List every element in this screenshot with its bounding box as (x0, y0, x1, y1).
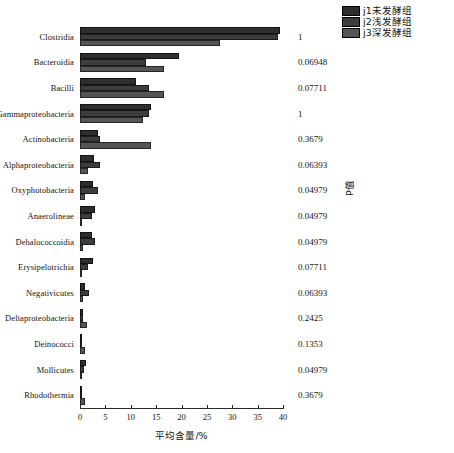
bar-group (80, 75, 283, 101)
bar (80, 219, 82, 225)
legend-item-label: j2浅发酵组 (363, 17, 412, 27)
bar (80, 91, 164, 97)
x-axis-tick-label: 35 (253, 412, 262, 422)
x-axis-tick (105, 405, 106, 409)
p-value-label: 0.06393 (298, 288, 327, 298)
bar-group (80, 254, 283, 280)
p-value-row: 0.1353 (290, 331, 352, 357)
p-value-row: 0.04979 (290, 357, 352, 383)
category-row: Alphaproteobacteria (0, 152, 78, 178)
category-row: Oxyphotobacteria (0, 178, 78, 204)
bar (80, 194, 85, 200)
x-axis-tick-label: 40 (279, 412, 288, 422)
category-label: Actinobacteria (23, 134, 74, 144)
x-axis-title: 平均含量/% (80, 428, 283, 442)
legend-item[interactable]: j2浅发酵组 (342, 17, 412, 27)
category-label: Clostridia (39, 32, 74, 42)
bar-group (80, 331, 283, 357)
p-value-axis-title: P值 (342, 180, 356, 196)
bar-row (80, 24, 283, 50)
bar (80, 322, 87, 328)
x-axis-tick (131, 405, 132, 409)
category-row: Deinococci (0, 331, 78, 357)
p-value-label: 0.3679 (298, 134, 323, 144)
bar-row (80, 75, 283, 101)
category-row: Anaerolineae (0, 203, 78, 229)
p-value-label: 0.1353 (298, 339, 323, 349)
legend-item-label: j1未发酵组 (363, 6, 412, 16)
category-row: Actinobacteria (0, 126, 78, 152)
bar-row (80, 229, 283, 255)
x-axis-tick (182, 405, 183, 409)
p-value-label: 0.04979 (298, 185, 327, 195)
category-label: Alphaproteobacteria (3, 160, 74, 170)
category-label: Anaerolineae (27, 211, 74, 221)
p-value-row: 0.04979 (290, 229, 352, 255)
bar-group (80, 280, 283, 306)
bar-group (80, 152, 283, 178)
bar (80, 245, 83, 251)
bar-row (80, 306, 283, 332)
bar-group (80, 24, 283, 50)
bar (80, 117, 143, 123)
p-value-row: 0.3679 (290, 382, 352, 408)
p-value-label: 0.04979 (298, 211, 327, 221)
p-value-label: 0.07711 (298, 262, 327, 272)
bar-row (80, 126, 283, 152)
p-value-row: 1 (290, 24, 352, 50)
p-value-label: 1 (298, 32, 303, 42)
category-label: Rhodothermia (24, 390, 74, 400)
x-axis-tick-label: 5 (103, 412, 107, 422)
bar-group (80, 357, 283, 383)
x-axis-tick (156, 405, 157, 409)
x-axis-tick (80, 405, 81, 409)
category-row: Negativicutes (0, 280, 78, 306)
category-axis-labels: ClostridiaBacteroidiaBacilliGammaproteob… (0, 24, 78, 408)
bar (80, 373, 82, 379)
bar-row (80, 152, 283, 178)
category-row: Mollicutes (0, 357, 78, 383)
category-label: Bacilli (51, 83, 74, 93)
bar (80, 270, 82, 276)
category-label: Mollicutes (37, 365, 74, 375)
chart-plot-area: j1未发酵组j2浅发酵组j3深发酵组 ClostridiaBacteroidia… (0, 0, 454, 453)
x-axis-tick (232, 405, 233, 409)
category-row: Dehalococcoidia (0, 229, 78, 255)
category-label: Deinococci (34, 339, 74, 349)
p-value-label: 1 (298, 109, 303, 119)
p-value-row: 0.06393 (290, 280, 352, 306)
category-label: Negativicutes (26, 288, 74, 298)
x-axis-tick (258, 405, 259, 409)
bar-row (80, 280, 283, 306)
bar-row (80, 357, 283, 383)
bar-group (80, 306, 283, 332)
p-value-label: 0.06393 (298, 160, 327, 170)
category-label: Gammaproteobacteria (0, 109, 74, 119)
p-value-row: 0.06393 (290, 152, 352, 178)
bar-row (80, 178, 283, 204)
legend-swatch-icon (342, 6, 360, 16)
x-axis-tick-label: 15 (152, 412, 161, 422)
x-axis-tick-label: 30 (228, 412, 237, 422)
legend-item[interactable]: j3深发酵组 (342, 28, 412, 38)
bar-group (80, 50, 283, 76)
p-value-label: 0.07711 (298, 83, 327, 93)
p-value-row: 0.04979 (290, 203, 352, 229)
bar (80, 296, 83, 302)
bar-row (80, 203, 283, 229)
bar-group (80, 101, 283, 127)
category-row: Bacilli (0, 75, 78, 101)
bar (80, 66, 164, 72)
bar-row (80, 331, 283, 357)
x-axis-tick-label: 0 (78, 412, 82, 422)
category-label: Deltaproteobacteria (5, 313, 74, 323)
p-value-label: 0.04979 (298, 237, 327, 247)
bar (80, 142, 151, 148)
bar (80, 168, 88, 174)
p-value-column: 10.069480.0771110.36790.063930.049790.04… (290, 24, 352, 408)
p-value-row: 0.07711 (290, 75, 352, 101)
category-label: Dehalococcoidia (15, 237, 74, 247)
legend-item[interactable]: j1未发酵组 (342, 6, 412, 16)
bar-group (80, 229, 283, 255)
p-value-row: 0.2425 (290, 306, 352, 332)
